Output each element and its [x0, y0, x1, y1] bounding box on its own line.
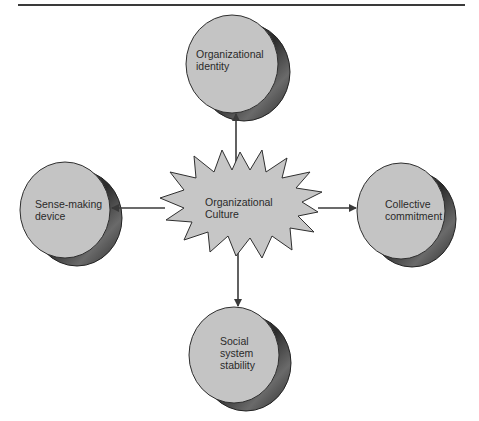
node-label-social-system-stability: Social system stability [220, 335, 255, 371]
node-label-collective-commitment: Collective commitment [385, 198, 442, 222]
label-line: commitment [385, 210, 442, 222]
center-label-organizational-culture: Organizational Culture [205, 196, 273, 220]
node-label-sense-making-device: Sense-making device [35, 198, 102, 222]
label-line: Collective [385, 198, 442, 210]
node-label-organizational-identity: Organizational identity [196, 48, 264, 72]
label-line: identity [196, 60, 264, 72]
label-line: system [220, 347, 255, 359]
label-line: device [35, 210, 102, 222]
label-line: Organizational [205, 196, 273, 208]
label-line: Sense-making [35, 198, 102, 210]
label-line: Social [220, 335, 255, 347]
label-line: stability [220, 359, 255, 371]
label-line: Culture [205, 208, 273, 220]
label-line: Organizational [196, 48, 264, 60]
